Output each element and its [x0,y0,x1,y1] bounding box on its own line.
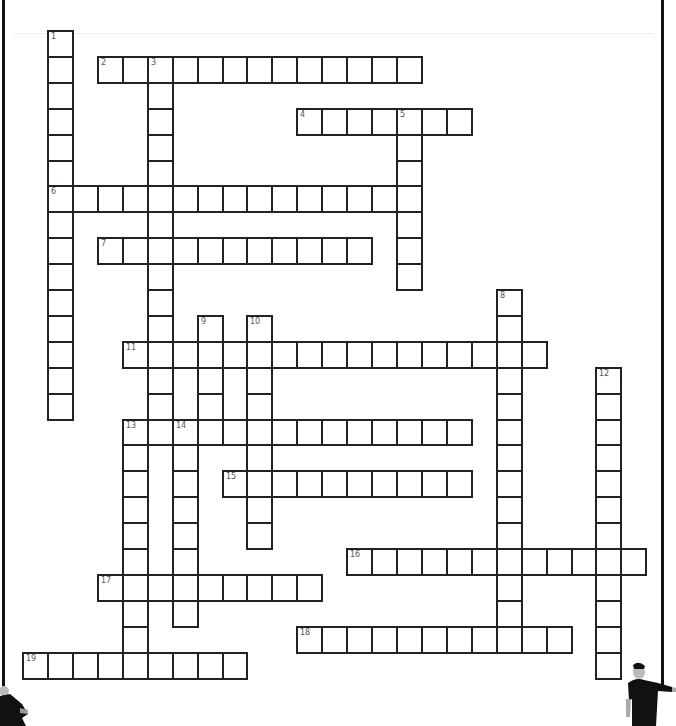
crossword-cell[interactable] [446,108,473,136]
crossword-cell[interactable] [47,108,74,136]
crossword-cell[interactable] [72,652,99,680]
crossword-cell[interactable] [296,341,323,369]
crossword-cell[interactable] [172,548,199,576]
crossword-cell[interactable] [147,367,174,395]
crossword-cell[interactable] [271,574,298,602]
crossword-cell[interactable] [496,496,523,524]
crossword-cell[interactable]: 3 [147,56,174,84]
crossword-cell[interactable] [321,56,348,84]
crossword-cell[interactable] [147,160,174,187]
crossword-cell[interactable] [47,237,74,265]
crossword-cell[interactable] [246,56,273,84]
crossword-cell[interactable] [246,237,273,265]
crossword-cell[interactable]: 17 [97,574,124,602]
crossword-cell[interactable] [271,237,298,265]
crossword-cell[interactable]: 6 [47,185,74,213]
crossword-cell[interactable] [371,626,398,654]
crossword-cell[interactable] [446,419,473,446]
crossword-cell[interactable] [147,393,174,421]
crossword-cell[interactable] [271,470,298,498]
crossword-cell[interactable] [246,496,273,524]
crossword-cell[interactable]: 7 [97,237,124,265]
crossword-cell[interactable] [296,56,323,84]
crossword-cell[interactable]: 10 [246,315,273,343]
crossword-cell[interactable] [47,341,74,369]
crossword-cell[interactable] [222,56,248,84]
crossword-cell[interactable] [246,367,273,395]
crossword-cell[interactable]: 19 [22,652,49,680]
crossword-cell[interactable] [396,626,423,654]
crossword-cell[interactable]: 14 [172,419,199,446]
crossword-cell[interactable] [122,496,149,524]
crossword-cell[interactable] [47,263,74,291]
crossword-cell[interactable] [222,185,248,213]
crossword-cell[interactable] [47,367,74,395]
crossword-cell[interactable] [47,134,74,162]
crossword-cell[interactable] [396,419,423,446]
crossword-cell[interactable] [421,419,448,446]
crossword-cell[interactable] [97,652,124,680]
crossword-cell[interactable] [147,237,174,265]
crossword-cell[interactable] [197,419,224,446]
crossword-cell[interactable] [421,108,448,136]
crossword-cell[interactable] [595,470,622,498]
crossword-cell[interactable] [496,419,523,446]
crossword-cell[interactable] [122,626,149,654]
crossword-cell[interactable] [197,367,224,395]
crossword-cell[interactable] [595,522,622,550]
crossword-cell[interactable]: 15 [222,470,248,498]
crossword-cell[interactable] [122,56,149,84]
crossword-cell[interactable] [246,574,273,602]
crossword-cell[interactable] [172,56,199,84]
crossword-cell[interactable]: 2 [97,56,124,84]
crossword-cell[interactable] [97,185,124,213]
crossword-cell[interactable] [446,626,473,654]
crossword-cell[interactable] [122,237,149,265]
crossword-cell[interactable] [147,574,174,602]
crossword-cell[interactable] [296,419,323,446]
crossword-cell[interactable] [321,108,348,136]
crossword-cell[interactable] [321,470,348,498]
crossword-cell[interactable] [197,185,224,213]
crossword-cell[interactable] [122,470,149,498]
crossword-cell[interactable] [471,626,498,654]
crossword-cell[interactable] [396,237,423,265]
crossword-cell[interactable] [396,185,423,213]
crossword-cell[interactable] [521,341,548,369]
crossword-cell[interactable] [147,652,174,680]
crossword-cell[interactable] [172,341,199,369]
crossword-cell[interactable] [147,185,174,213]
crossword-cell[interactable] [172,522,199,550]
crossword-cell[interactable] [47,211,74,239]
crossword-cell[interactable] [595,600,622,628]
crossword-cell[interactable] [246,444,273,472]
crossword-cell[interactable] [521,548,548,576]
crossword-cell[interactable] [595,652,622,680]
crossword-cell[interactable] [496,626,523,654]
crossword-cell[interactable] [371,548,398,576]
crossword-cell[interactable] [421,548,448,576]
crossword-cell[interactable] [496,574,523,602]
crossword-cell[interactable] [147,419,174,446]
crossword-cell[interactable] [396,548,423,576]
crossword-cell[interactable] [47,652,74,680]
crossword-cell[interactable] [396,341,423,369]
crossword-cell[interactable] [496,548,523,576]
crossword-cell[interactable] [147,263,174,291]
crossword-cell[interactable] [396,211,423,239]
crossword-cell[interactable] [172,574,199,602]
crossword-cell[interactable] [147,211,174,239]
crossword-cell[interactable] [346,185,373,213]
crossword-cell[interactable] [246,419,273,446]
crossword-cell[interactable] [446,341,473,369]
crossword-cell[interactable] [396,263,423,291]
crossword-cell[interactable]: 11 [122,341,149,369]
crossword-cell[interactable] [271,419,298,446]
crossword-cell[interactable] [172,652,199,680]
crossword-cell[interactable] [222,419,248,446]
crossword-cell[interactable] [172,496,199,524]
crossword-cell[interactable] [321,341,348,369]
crossword-cell[interactable] [197,341,224,369]
crossword-cell[interactable] [595,548,622,576]
crossword-cell[interactable] [222,652,248,680]
